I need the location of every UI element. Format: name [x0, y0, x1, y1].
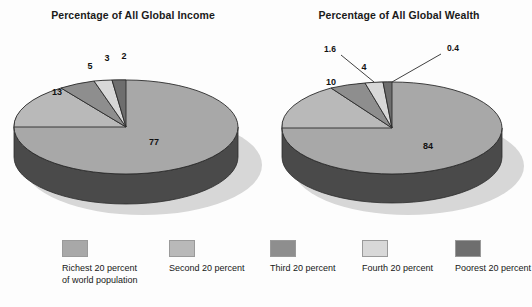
- data-label-richest: 77: [149, 137, 159, 147]
- legend-label-line1: Poorest 20 percent: [455, 263, 531, 275]
- legend-swatch-second: [169, 240, 195, 257]
- legend-label-line1: Second 20 percent: [169, 263, 245, 275]
- chart-title-wealth: Percentage of All Global Wealth: [266, 9, 532, 21]
- legend-item-third: Third 20 percent: [270, 240, 336, 275]
- data-label-third: 5: [87, 61, 92, 71]
- pie-chart-income: [0, 30, 266, 225]
- data-label-second: 10: [326, 77, 336, 87]
- legend-label-third: Third 20 percent: [270, 263, 336, 275]
- chart-title-income: Percentage of All Global Income: [0, 9, 266, 21]
- chart-figure: Percentage of All Global Income 77 13: [0, 0, 532, 307]
- pie-chart-wealth: [266, 30, 532, 225]
- legend-label-line1: Third 20 percent: [270, 263, 336, 275]
- data-label-poorest: 2: [121, 51, 126, 61]
- legend-item-fourth: Fourth 20 percent: [362, 240, 433, 275]
- data-label-third: 4: [361, 62, 366, 72]
- legend-swatch-poorest: [455, 240, 481, 257]
- legend-item-poorest: Poorest 20 percent: [455, 240, 531, 275]
- data-label-fourth: 1.6: [324, 44, 336, 54]
- legend-label-line1: Richest 20 percent: [62, 263, 138, 275]
- leader-line-fourth: [341, 55, 374, 82]
- data-label-poorest: 0.4: [447, 43, 459, 53]
- legend-label-line1: Fourth 20 percent: [362, 263, 433, 275]
- pie-stage-wealth: 84 10 4 1.6 0.4: [266, 30, 532, 225]
- data-label-fourth: 3: [104, 53, 109, 63]
- data-label-richest: 84: [423, 141, 433, 151]
- legend-swatch-third: [270, 240, 296, 257]
- data-label-second: 13: [52, 87, 62, 97]
- pie-stage-income: 77 13 5 3 2: [0, 30, 266, 225]
- legend-label-richest: Richest 20 percent of world population: [62, 263, 138, 286]
- legend-label-poorest: Poorest 20 percent: [455, 263, 531, 275]
- chart-panel-income: Percentage of All Global Income 77 13: [0, 0, 266, 225]
- legend-swatch-fourth: [362, 240, 388, 257]
- legend-label-line2: of world population: [62, 275, 138, 287]
- legend-item-second: Second 20 percent: [169, 240, 245, 275]
- legend-label-fourth: Fourth 20 percent: [362, 263, 433, 275]
- legend-item-richest: Richest 20 percent of world population: [62, 240, 138, 286]
- legend-swatch-richest: [62, 240, 88, 257]
- legend-label-second: Second 20 percent: [169, 263, 245, 275]
- chart-legend: Richest 20 percent of world population S…: [0, 228, 532, 307]
- chart-panel-wealth: Percentage of All Global Wealth 84 10 4 …: [266, 0, 532, 225]
- leader-line-poorest: [392, 54, 441, 82]
